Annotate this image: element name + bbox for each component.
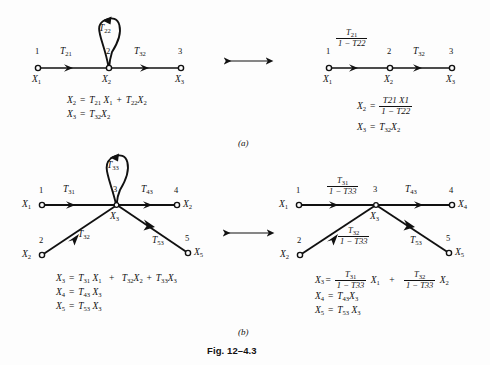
node-3-variable: X3 — [446, 75, 455, 85]
figure-page: 1 2 3 X1 X2 X3 T21 T32 T22 X2 = T21 X1 +… — [0, 0, 490, 365]
edge-label-denominator: 1 − T33 — [327, 186, 358, 197]
num-sub: 31 — [342, 178, 349, 185]
node-2 — [39, 252, 44, 257]
eq-x-sub: 3 — [98, 305, 101, 312]
node-3-index: 3 — [449, 47, 453, 56]
node-2-index: 2 — [297, 236, 301, 245]
node-3-variable: X3 — [110, 212, 119, 222]
node-2-variable: X2 — [384, 75, 393, 85]
node-4-variable-sub: 4 — [464, 203, 467, 210]
node-2-variable: X2 — [102, 75, 111, 85]
node-3 — [374, 203, 379, 208]
equation-a-right-2: X3 = T32X2 — [357, 123, 400, 133]
eq-equals: = — [67, 301, 75, 311]
edge-label-T21-over-1-minus-T22: T21 1 − T22 — [336, 28, 367, 49]
t-sub: 31 — [350, 272, 357, 279]
num-sub: 32 — [353, 228, 360, 235]
equation-a-left-1: X2 = T21 X1 + T22X2 — [67, 96, 147, 106]
eq-x1-sub: 1 — [109, 99, 112, 106]
node-1-variable: X1 — [22, 200, 31, 210]
edge-label-T53: T53 — [410, 236, 422, 246]
eq-lhs-sub: 4 — [62, 291, 65, 298]
edge-label-T32-over-1-minus-T33: T32 1 − T33 — [338, 226, 369, 247]
edge-label-T32-sub: 32 — [139, 50, 146, 57]
node-2 — [106, 65, 111, 70]
equation-a-right-1: X2 = T21 X1 1 − T22 — [357, 96, 412, 117]
node-4-variable-sub: 2 — [189, 203, 192, 210]
node-3 — [449, 65, 454, 70]
node-2-variable: X2 — [22, 250, 31, 260]
node-3 — [114, 203, 119, 208]
edge-label-T53-sub: 53 — [157, 239, 164, 246]
node-1 — [326, 65, 331, 70]
eq-x-sub: 3 — [98, 291, 101, 298]
node-2-index: 2 — [39, 236, 43, 245]
node-1-index: 1 — [35, 47, 39, 56]
self-loop-label-T22: T22 — [99, 24, 111, 34]
edge-label-T31: T31 — [63, 185, 75, 195]
eq-lhs-sub: 2 — [363, 105, 366, 112]
eq-equals: = — [67, 273, 75, 283]
edge-label-T43: T43 — [141, 185, 153, 195]
edge-label-T21: T21 — [60, 47, 72, 57]
eq-lhs-sub: 3 — [363, 126, 366, 133]
equation-b-right-1: X3= T31 1 − T33 X1 + T32 1 − T33 X2 — [315, 270, 449, 291]
eq-x3-sub: 3 — [174, 277, 177, 284]
equation-b-left-3: X5 = T53 X3 — [56, 302, 102, 312]
eq-plus-2: + — [145, 273, 153, 283]
node-5-variable-sub: 5 — [461, 251, 464, 258]
node-3-variable: X3 — [175, 75, 184, 85]
eq-x2-sub: 2 — [139, 277, 142, 284]
node-3-variable-sub: 3 — [376, 215, 379, 222]
eq-equals: = — [368, 122, 376, 132]
edge-label-T32-sub: 32 — [418, 50, 425, 57]
eq-equals: = — [324, 275, 332, 285]
node-5-variable: X5 — [455, 248, 464, 258]
eq-equals: = — [326, 291, 334, 301]
node-1-variable: X1 — [279, 200, 288, 210]
node-2-index: 2 — [387, 47, 391, 56]
eq-x2-sub: 2 — [143, 99, 146, 106]
eq-term2-var-sub: 2 — [446, 278, 449, 285]
node-1-variable-sub: 1 — [285, 203, 288, 210]
node-4-index: 4 — [174, 186, 178, 195]
node-2-variable-sub: 2 — [390, 78, 393, 85]
eq-t-sub: 43 — [84, 291, 91, 298]
node-1-variable: X1 — [323, 75, 332, 85]
eq-lhs-sub: 5 — [62, 305, 65, 312]
eq-equals: = — [326, 305, 334, 315]
node-3-variable-sub: 3 — [452, 78, 455, 85]
edge-label-T43: T43 — [405, 185, 417, 195]
node-4-variable: X2 — [183, 200, 192, 210]
edge-label-numerator: T21 — [336, 28, 367, 38]
equation-b-left-2: X4 = T43 X3 — [56, 288, 102, 298]
equation-b-left-1: X3 = T31 X1 + T32X2 + T33X3 — [56, 274, 177, 284]
eq-t1-sub: 21 — [95, 99, 102, 106]
part-b-caption: (b) — [238, 327, 249, 337]
node-3-variable-sub: 3 — [181, 78, 184, 85]
edge-label-numerator: T32 — [338, 226, 369, 236]
eq-lhs-sub: 4 — [321, 295, 324, 302]
equation-a-left-2: X3 = T32X2 — [67, 110, 110, 120]
eq-lhs-sub: 3 — [73, 113, 76, 120]
node-1-index: 1 — [39, 186, 43, 195]
eq-term1-denominator: 1 − T33 — [335, 280, 366, 291]
eq-x-sub: 2 — [397, 126, 400, 133]
eq-denominator: 1 − T22 — [379, 106, 412, 117]
edge-label-T43-sub: 43 — [410, 188, 417, 195]
edge-label-T31-over-1-minus-T33: T31 1 − T33 — [327, 176, 358, 197]
edge-label-T53: T53 — [152, 236, 164, 246]
edge-label-denominator: 1 − T22 — [336, 38, 367, 49]
eq-t1-sub: 31 — [84, 277, 91, 284]
equation-b-right-2: X4 = T43X3 — [315, 292, 358, 302]
node-1-variable: X1 — [32, 75, 41, 85]
edge-label-numerator: T31 — [327, 176, 358, 186]
eq-term2-numerator: T32 — [404, 270, 435, 280]
node-5-variable-sub: 5 — [200, 251, 203, 258]
edge-label-T32-sub: 32 — [83, 233, 90, 240]
edge-label-T32: T32 — [78, 230, 90, 240]
node-1-variable-sub: 1 — [28, 203, 31, 210]
eq-x1-sub: 1 — [98, 277, 101, 284]
node-1 — [296, 202, 301, 207]
edge-label-T32: T32 — [413, 47, 425, 57]
